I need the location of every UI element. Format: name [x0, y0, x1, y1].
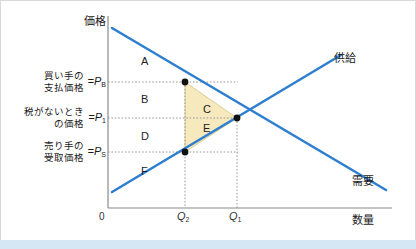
price-symbol-p1: =P — [88, 111, 102, 123]
quantity-tick-q1: Q1 — [229, 210, 241, 224]
price-symbol-pb: =P — [88, 75, 102, 87]
price-label-seller-symbol: =PS — [88, 145, 106, 158]
region-label-d: D — [141, 130, 149, 142]
price-label-buyer-description: 買い手の 支払価格 — [44, 70, 84, 94]
bottom-accent-strip — [0, 240, 416, 249]
region-label-c: C — [203, 103, 211, 115]
price-label-buyer-symbol: =PB — [88, 75, 106, 88]
price-label-no-tax-line1: 税がないとき — [24, 106, 84, 118]
quantity-tick-q2: Q2 — [177, 210, 189, 224]
price-label-seller-description: 売り手の 受取価格 — [44, 140, 84, 164]
price-symbol-ps: =P — [88, 145, 102, 157]
demand-curve-label: 需要 — [352, 172, 374, 188]
buyer-price-point — [182, 79, 189, 86]
price-label-buyer: 買い手の 支払価格 =PB — [0, 70, 108, 94]
x-axis-title: 数量 — [352, 214, 374, 227]
price-subscript-pb: B — [101, 81, 106, 88]
y-axis-title: 価格 — [84, 15, 106, 28]
region-label-f: F — [141, 165, 148, 177]
price-label-buyer-line1: 買い手の — [44, 70, 84, 82]
supply-demand-diagram: 価格 数量 0 Q2 Q1 買い手の 支払価格 =PB 税がないとき の価格 =… — [0, 0, 416, 249]
region-label-e: E — [203, 122, 210, 134]
origin-label: 0 — [99, 211, 105, 223]
quantity-tick-q1-subscript: 1 — [238, 216, 242, 223]
quantity-tick-q2-symbol: Q — [177, 210, 186, 222]
price-label-no-tax-description: 税がないとき の価格 — [24, 106, 84, 130]
price-label-buyer-line2: 支払価格 — [44, 82, 84, 94]
price-subscript-p1: 1 — [102, 117, 106, 124]
price-subscript-ps: S — [101, 151, 106, 158]
deadweight-loss-triangle — [185, 82, 237, 152]
price-label-seller: 売り手の 受取価格 =PS — [0, 140, 108, 164]
region-label-a: A — [141, 55, 148, 67]
price-label-no-tax: 税がないとき の価格 =P1 — [0, 106, 108, 130]
quantity-tick-q2-subscript: 2 — [186, 216, 190, 223]
price-label-seller-line2: 受取価格 — [44, 152, 84, 164]
seller-price-point — [182, 149, 189, 156]
price-label-no-tax-line2: の価格 — [24, 118, 84, 130]
quantity-tick-q1-symbol: Q — [229, 210, 238, 222]
price-label-no-tax-symbol: =P1 — [88, 111, 106, 124]
price-label-seller-line1: 売り手の — [44, 140, 84, 152]
region-label-b: B — [141, 93, 148, 105]
equilibrium-point — [234, 115, 241, 122]
supply-curve-label: 供給 — [334, 49, 356, 65]
